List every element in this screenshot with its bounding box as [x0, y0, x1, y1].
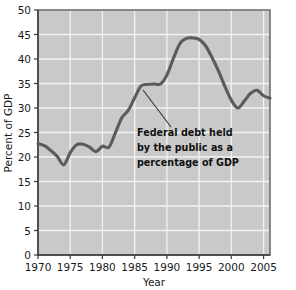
- line-chart: 50 45 40 35 30 25 20 15 10 5 0 1970 1975…: [0, 0, 296, 290]
- y-tick-label: 0: [24, 249, 31, 261]
- y-tick-label: 50: [18, 4, 31, 16]
- annotation-line-3: percentage of GDP: [137, 157, 239, 168]
- y-tick-label: 25: [18, 127, 31, 139]
- y-tick-label: 20: [18, 151, 31, 163]
- chart-figure: 50 45 40 35 30 25 20 15 10 5 0 1970 1975…: [0, 0, 296, 290]
- x-tick-label: 1985: [121, 261, 148, 273]
- x-tick-label: 1995: [186, 261, 213, 273]
- x-tick-label: 1980: [89, 261, 116, 273]
- x-tick-label: 2000: [218, 261, 245, 273]
- y-tick-label: 5: [24, 225, 31, 237]
- y-tick-label: 45: [18, 29, 31, 41]
- x-tick-label: 1970: [25, 261, 52, 273]
- y-tick-label: 35: [18, 78, 31, 90]
- y-tick-label: 30: [18, 102, 31, 114]
- y-tick-label: 15: [18, 176, 31, 188]
- y-tick-label: 40: [18, 53, 31, 65]
- annotation-line-2: by the public as a: [137, 142, 233, 153]
- x-tick-label: 1975: [57, 261, 84, 273]
- x-axis-tick-labels: 1970 1975 1980 1985 1990 1995 2000 2005: [25, 261, 277, 273]
- y-axis-tick-labels: 50 45 40 35 30 25 20 15 10 5 0: [18, 4, 31, 261]
- annotation-line-1: Federal debt held: [137, 127, 233, 138]
- x-axis-title: Year: [142, 276, 166, 288]
- y-tick-label: 10: [18, 200, 31, 212]
- y-axis-title: Percent of GDP: [2, 94, 14, 173]
- annotation-callout: Federal debt held by the public as a per…: [137, 127, 239, 168]
- x-tick-label: 2005: [250, 261, 277, 273]
- x-tick-label: 1990: [154, 261, 181, 273]
